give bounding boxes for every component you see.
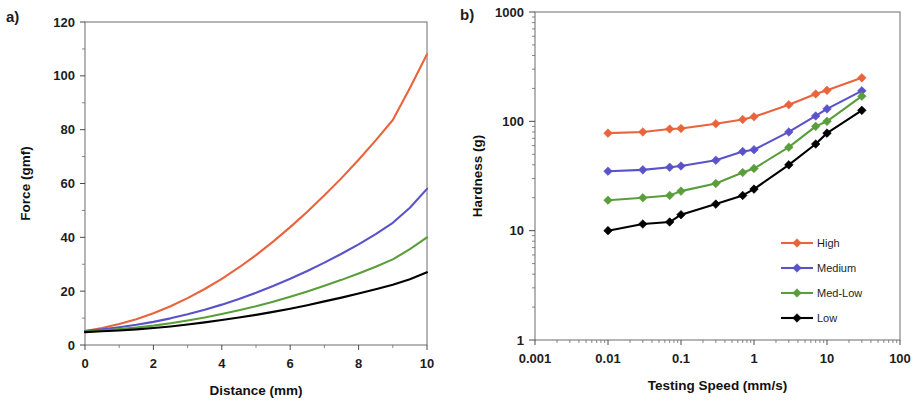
data-point-low [738,191,747,200]
plot-frame [85,22,427,345]
legend-label: Low [817,312,837,324]
figure-container: a) 0204060801001200246810Distance (mm)Fo… [0,0,916,402]
x-tick-label: 0 [81,356,88,371]
legend: HighMediumMed-LowLow [781,237,862,324]
panel-a: a) 0204060801001200246810Distance (mm)Fo… [0,0,460,402]
data-point-high [811,90,820,99]
legend-item-high[interactable]: High [781,237,840,249]
data-point-medium [738,147,747,156]
x-tick-label: 2 [150,356,157,371]
legend-label: Medium [817,262,856,274]
data-point-med-low [639,193,648,202]
legend-swatch-marker [793,289,802,298]
y-tick-label: 40 [61,230,75,245]
series-line-high [608,78,862,133]
data-point-med-low [665,191,674,200]
x-axis-title: Distance (mm) [209,383,302,398]
data-point-medium [712,156,721,165]
legend-item-medium[interactable]: Medium [781,262,856,274]
legend-swatch-marker [793,264,802,273]
y-tick-label: 120 [53,15,75,30]
data-point-high [712,119,721,128]
data-point-med-low [604,196,613,205]
legend-swatch-marker [793,314,802,323]
data-point-high [677,124,686,133]
data-point-high [639,128,648,137]
data-point-high [665,125,674,134]
y-tick-label: 100 [502,114,524,129]
legend-item-low[interactable]: Low [781,312,837,324]
data-point-high [750,113,759,122]
x-tick-label: 100 [889,351,911,366]
panel-b: b) 11010010000.0010.010.1110100Testing S… [456,0,916,402]
data-point-med-low [712,179,721,188]
x-tick-label: 10 [420,356,434,371]
data-point-med-low [677,187,686,196]
legend-swatch-marker [793,239,802,248]
x-tick-label: 0.01 [595,351,620,366]
x-tick-label: 0.001 [519,351,552,366]
series-line-medium [85,189,427,331]
data-point-high [823,86,832,95]
panel-b-plot: 11010010000.0010.010.1110100Testing Spee… [456,0,916,402]
legend-item-med-low[interactable]: Med-Low [781,287,862,299]
y-tick-label: 1000 [495,5,524,20]
x-tick-label: 1 [750,351,757,366]
data-point-high [604,129,613,138]
panel-a-plot: 0204060801001200246810Distance (mm)Force… [0,0,460,402]
data-point-low [712,200,721,209]
y-axis-title: Force (gmf) [18,146,33,220]
data-point-medium [750,145,759,154]
data-point-high [858,74,867,83]
y-tick-label: 0 [68,338,75,353]
data-point-low [604,226,613,235]
x-tick-label: 8 [355,356,362,371]
data-point-med-low [738,168,747,177]
data-point-high [785,100,794,109]
legend-label: Med-Low [817,287,862,299]
data-point-medium [604,167,613,176]
y-axis-title: Hardness (g) [470,135,485,218]
y-tick-label: 80 [61,122,75,137]
x-axis-title: Testing Speed (mm/s) [648,378,787,393]
x-tick-label: 6 [287,356,294,371]
y-tick-label: 60 [61,176,75,191]
series-line-med-low [85,237,427,331]
series-line-low [85,272,427,332]
legend-label: High [817,237,840,249]
data-point-low [639,220,648,229]
y-tick-label: 100 [53,68,75,83]
data-point-medium [665,163,674,172]
x-tick-label: 0.1 [672,351,690,366]
data-point-high [738,115,747,124]
y-tick-label: 20 [61,284,75,299]
x-tick-label: 4 [218,356,226,371]
y-tick-label: 1 [517,333,524,348]
y-tick-label: 10 [510,223,524,238]
data-point-medium [677,162,686,171]
x-tick-label: 10 [820,351,834,366]
data-point-medium [639,166,648,175]
